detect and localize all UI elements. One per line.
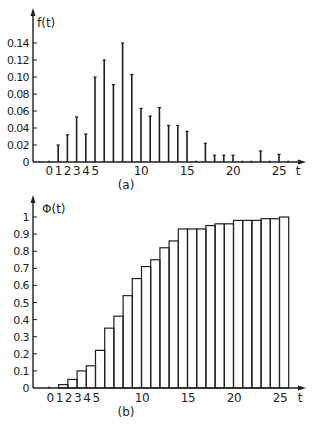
y-tick-label: 0.3: [13, 331, 29, 344]
cumulative-bar: [224, 224, 233, 388]
x-tick-label: 3: [73, 164, 80, 178]
x-tick-label: 2: [65, 391, 72, 405]
y-tick-label: 0.12: [7, 54, 29, 67]
cumulative-bar: [86, 366, 95, 388]
x-tick-label: 1: [56, 391, 63, 405]
zero-value-dot: [48, 387, 50, 389]
cumulative-bar: [169, 241, 178, 388]
y-tick-label: 0.04: [7, 122, 30, 135]
x-tick-label: 15: [181, 391, 195, 405]
chart-figure: 00.020.040.060.080.100.120.1401234510152…: [0, 0, 322, 432]
zero-value-dot: [195, 161, 197, 163]
cumulative-bar: [160, 248, 169, 388]
x-tick-label: 25: [272, 164, 286, 178]
x-axis-title: t: [296, 164, 301, 178]
x-tick-label: 10: [135, 391, 149, 405]
x-tick-label: 1: [55, 164, 62, 178]
figure: 00.020.040.060.080.100.120.1401234510152…: [0, 0, 322, 432]
cumulative-bar: [123, 296, 132, 388]
y-tick-label: 0.8: [13, 245, 29, 258]
panel-label: (a): [118, 178, 135, 192]
cumulative-bar: [178, 229, 187, 388]
cumulative-bar: [142, 267, 151, 388]
y-tick-label: 0.1: [13, 365, 29, 378]
cumulative-bar: [188, 229, 197, 388]
cumulative-bar: [197, 229, 206, 388]
x-axis-arrow-icon: [298, 386, 306, 391]
y-tick-label: 0.2: [13, 348, 29, 361]
x-tick-label: 3: [74, 391, 81, 405]
x-tick-label: 20: [226, 164, 240, 178]
y-tick-label: 0.4: [13, 314, 29, 327]
zero-value-dot: [287, 161, 289, 163]
x-tick-label: 0: [45, 164, 52, 178]
y-axis-arrow-icon: [31, 8, 36, 16]
y-tick-label: 0.7: [13, 262, 29, 275]
y-axis-arrow-icon: [31, 195, 36, 203]
x-tick-label: 25: [273, 391, 287, 405]
cumulative-bar: [261, 219, 270, 388]
y-tick-label: 1: [23, 211, 29, 224]
chart-panel-a: 00.020.040.060.080.100.120.1401234510152…: [7, 8, 306, 192]
cumulative-bar: [252, 220, 261, 388]
zero-value-dot: [48, 161, 50, 163]
x-tick-label: 5: [91, 164, 98, 178]
zero-value-dot: [269, 161, 271, 163]
y-tick-label: 0.14: [7, 37, 30, 50]
x-tick-label: 2: [64, 164, 71, 178]
panel-label: (b): [118, 405, 135, 419]
zero-value-dot: [251, 161, 253, 163]
cumulative-bar: [280, 217, 289, 388]
y-tick-label: 0.5: [13, 297, 29, 310]
cumulative-bar: [68, 379, 77, 388]
y-tick-label: 0.9: [13, 228, 29, 241]
y-tick-label: 0.02: [7, 139, 29, 152]
chart-panel-b: 00.10.20.30.40.50.60.70.80.9101234510152…: [13, 195, 306, 419]
cumulative-bar: [77, 371, 86, 388]
cumulative-bar: [243, 220, 252, 388]
x-tick-label: 15: [180, 164, 194, 178]
cumulative-bar: [132, 279, 141, 388]
x-axis-title: t: [298, 391, 303, 405]
cumulative-bar: [234, 220, 243, 388]
x-tick-label: 4: [83, 391, 90, 405]
x-tick-label: 20: [227, 391, 241, 405]
y-tick-label: 0.08: [7, 88, 30, 101]
cumulative-bar: [270, 219, 279, 388]
y-tick-label: 0.6: [13, 279, 29, 292]
x-tick-label: 5: [92, 391, 99, 405]
zero-value-dot: [241, 161, 243, 163]
y-axis-title: Φ(t): [42, 202, 66, 216]
y-axis-title: f(t): [37, 16, 55, 30]
cumulative-bar: [215, 224, 224, 388]
x-tick-label: 0: [46, 391, 53, 405]
y-tick-label: 0: [23, 382, 30, 395]
cumulative-bar: [96, 350, 105, 388]
cumulative-bar: [206, 226, 215, 388]
x-tick-label: 4: [82, 164, 89, 178]
cumulative-bar: [151, 260, 160, 388]
x-tick-label: 10: [134, 164, 148, 178]
y-tick-label: 0: [23, 156, 30, 169]
cumulative-bar: [114, 316, 123, 388]
cumulative-bar: [59, 385, 68, 388]
y-tick-label: 0.06: [7, 105, 30, 118]
y-tick-label: 0.10: [7, 71, 30, 84]
cumulative-bar: [105, 328, 114, 388]
